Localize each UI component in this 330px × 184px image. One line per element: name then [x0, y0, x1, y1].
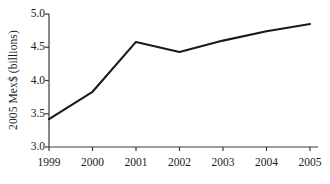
x-axis-ticks: [49, 147, 310, 151]
data-series-line: [49, 24, 310, 119]
plot-area: [0, 0, 330, 184]
line-chart: 2005 Mex$ (billions) 3.03.54.04.55.0 199…: [0, 0, 330, 184]
axes: [49, 14, 318, 147]
